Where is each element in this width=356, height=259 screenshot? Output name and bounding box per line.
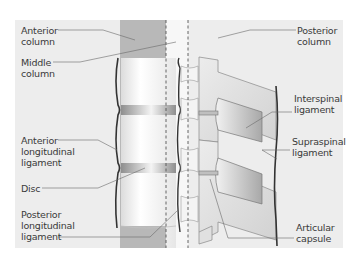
label-disc: Disc [21, 183, 40, 194]
label-interspinal-ligament: Interspinal ligament [294, 93, 342, 115]
label-anterior-longitudinal-ligament: Anterior longitudinal ligament [21, 135, 75, 168]
label-articular-capsule: Articular capsule [296, 222, 335, 244]
vertebral-bodies [120, 58, 176, 248]
label-posterior-column: Posterior column [297, 25, 337, 47]
label-supraspinal-ligament: Supraspinal ligament [292, 136, 346, 158]
label-posterior-longitudinal-ligament: Posterior longitudinal ligament [21, 209, 75, 242]
disc-lower [121, 163, 176, 173]
label-anterior-column: Anterior column [21, 25, 58, 47]
label-middle-column: Middle column [21, 57, 55, 79]
disc-upper [121, 105, 176, 115]
